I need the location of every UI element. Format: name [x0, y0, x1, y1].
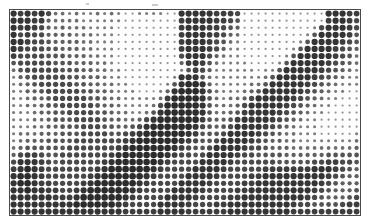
- scan-speck: [86, 3, 89, 5]
- halftone-figure: [9, 9, 361, 216]
- scan-speck: [152, 4, 158, 6]
- screenshot-root: [0, 0, 370, 224]
- halftone-dot-raster: [10, 10, 360, 215]
